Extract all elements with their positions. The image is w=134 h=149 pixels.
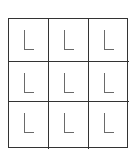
grid-cell xyxy=(49,102,89,149)
letter-l-glyph xyxy=(24,113,34,133)
letter-l-glyph xyxy=(24,30,34,50)
grid-cell xyxy=(49,62,89,102)
grid-cell xyxy=(89,19,129,62)
letter-l-glyph xyxy=(104,30,114,50)
grid-cell xyxy=(49,19,89,62)
letter-l-glyph xyxy=(104,113,114,133)
grid-cell xyxy=(89,102,129,149)
letter-grid xyxy=(8,18,128,148)
grid-cell xyxy=(9,102,49,149)
grid-cell xyxy=(9,19,49,62)
grid-cell xyxy=(89,62,129,102)
letter-l-glyph xyxy=(64,113,74,133)
letter-l-glyph xyxy=(104,73,114,93)
grid-cell xyxy=(9,62,49,102)
letter-l-glyph xyxy=(64,73,74,93)
letter-l-glyph xyxy=(64,30,74,50)
letter-l-glyph xyxy=(24,73,34,93)
